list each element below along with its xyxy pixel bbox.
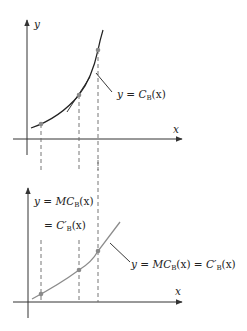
- point: [96, 48, 101, 53]
- bottom-panel: y = MCB(x) = C′B(x) x y = MCB(x) = C′B(x…: [13, 160, 236, 318]
- top-curve-label: y = CB(x): [116, 88, 166, 102]
- cost-curve: [31, 30, 103, 128]
- bottom-x-axis-label: x: [175, 285, 181, 297]
- top-x-axis-label: x: [173, 123, 179, 135]
- point: [77, 268, 82, 273]
- top-panel: y x y = CB(x): [13, 18, 182, 170]
- top-dashed-guides: [41, 50, 98, 170]
- bottom-curve-label: y = MCB(x) = C′B(x): [130, 258, 236, 272]
- bottom-y-axis-label-line1: y = MCB(x): [33, 195, 93, 209]
- bottom-y-axis-label-line2: = C′B(x): [44, 219, 86, 233]
- bottom-points: [39, 249, 101, 297]
- point: [77, 93, 82, 98]
- top-points: [39, 48, 101, 127]
- top-leader-line: [96, 73, 112, 92]
- point: [39, 122, 44, 127]
- point: [39, 292, 44, 297]
- point: [96, 249, 101, 254]
- top-y-axis-label: y: [33, 18, 41, 30]
- cost-diagram: y x y = CB(x) y = MCB(x) =: [0, 0, 247, 331]
- marginal-cost-curve: [32, 222, 120, 299]
- bottom-leader-line: [110, 243, 130, 262]
